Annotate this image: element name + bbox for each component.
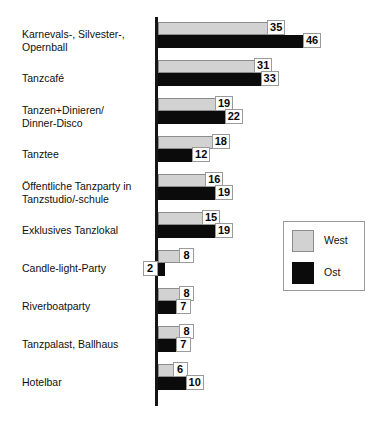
bar-ost — [158, 35, 308, 48]
bar-row: 16 — [158, 174, 210, 187]
legend-swatch-west-icon — [292, 230, 314, 252]
bar-row: 22 — [158, 111, 230, 124]
legend-swatch-ost-icon — [292, 262, 314, 284]
bar-row: 33 — [158, 73, 266, 86]
bar-row: 7 — [158, 301, 181, 314]
data-label: 18 — [212, 134, 230, 149]
bar-row: 46 — [158, 35, 308, 48]
data-label: 33 — [261, 71, 279, 86]
bar-west — [158, 22, 272, 35]
bar-row: 19 — [158, 225, 220, 238]
data-label: 22 — [225, 109, 243, 124]
bar-row: 19 — [158, 98, 220, 111]
bar-west — [158, 98, 220, 111]
bar-ost — [158, 187, 220, 200]
bar-row: 12 — [158, 149, 197, 162]
bar-row: 6 — [158, 364, 178, 377]
category-label: Tanzpalast, Ballhaus — [22, 338, 168, 351]
category-label: Tanzen+Dinieren/ Dinner-Disco — [22, 104, 168, 129]
data-label: 12 — [192, 147, 210, 162]
category-label: Hotelbar — [22, 376, 168, 389]
bar-row: 8 — [158, 250, 184, 263]
bar-row: 15 — [158, 212, 207, 225]
category-label: Tanztee — [22, 148, 168, 161]
data-label: 35 — [267, 20, 285, 35]
data-label: 19 — [215, 223, 233, 238]
bar-row: 35 — [158, 22, 272, 35]
category-label: Karnevals-, Silvester-, Opernball — [22, 28, 168, 53]
bar-row: 31 — [158, 60, 259, 73]
data-label: 19 — [215, 185, 233, 200]
data-label: 8 — [179, 248, 194, 263]
data-label: 10 — [186, 375, 204, 390]
bar-ost — [158, 263, 165, 276]
legend-label-west: West — [324, 234, 348, 247]
data-label: 2 — [143, 261, 158, 276]
bar-row: 19 — [158, 187, 220, 200]
bar-row: 7 — [158, 339, 181, 352]
legend-label-ost: Ost — [324, 266, 340, 279]
bar-west — [158, 212, 207, 225]
bar-row: 2 — [158, 263, 165, 276]
data-label: 7 — [176, 299, 191, 314]
bar-ost — [158, 225, 220, 238]
bar-ost — [158, 111, 230, 124]
category-label: Öffentliche Tanzparty in Tanzstudio/-sch… — [22, 180, 168, 205]
bar-row: 10 — [158, 377, 191, 390]
bar-west — [158, 174, 210, 187]
data-label: 46 — [303, 33, 321, 48]
category-label: Exklusives Tanzlokal — [22, 224, 168, 237]
category-label: Riverboatparty — [22, 300, 168, 313]
bar-chart: Karnevals-, Silvester-, Opernball3546Tan… — [0, 0, 388, 428]
bar-west — [158, 60, 259, 73]
bar-ost — [158, 73, 266, 86]
chart-legend: West Ost — [283, 221, 365, 291]
data-label: 7 — [176, 337, 191, 352]
plot-area: Karnevals-, Silvester-, Opernball3546Tan… — [0, 0, 388, 428]
category-label: Tanzcafé — [22, 72, 168, 85]
